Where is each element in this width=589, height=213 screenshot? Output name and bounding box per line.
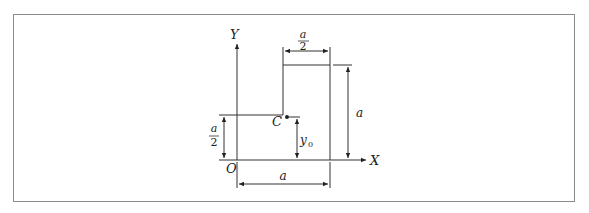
y0-subscript: 0 bbox=[308, 140, 313, 149]
x-axis-label: X bbox=[369, 153, 380, 168]
y0-label: y bbox=[299, 133, 307, 147]
origin-label: O bbox=[226, 161, 237, 176]
centroid-point bbox=[285, 115, 289, 119]
left-dim-denominator: 2 bbox=[211, 136, 218, 149]
top-dim-denominator: 2 bbox=[300, 40, 307, 53]
shape-outline bbox=[237, 65, 330, 160]
left-dim-numerator: a bbox=[211, 122, 218, 135]
bottom-dim-label: a bbox=[279, 169, 286, 183]
centroid-label: C bbox=[272, 114, 282, 129]
y-axis-label: Y bbox=[230, 27, 240, 42]
l-shape-diagram: Y X O C y 0 a 2 a a 2 a bbox=[0, 0, 589, 213]
right-dim-label: a bbox=[356, 106, 363, 120]
